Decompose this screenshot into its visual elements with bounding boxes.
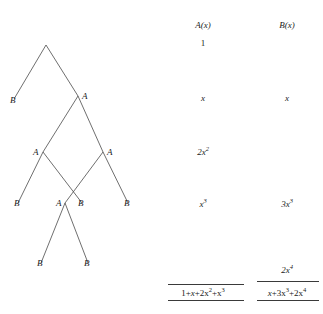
column-header-b: B(x) bbox=[279, 20, 295, 30]
column-a-term-3: x3 bbox=[199, 199, 206, 209]
column-a-term-0: 1 bbox=[201, 38, 206, 48]
tree-edge bbox=[46, 45, 78, 96]
column-a-sum: 1+x+2x2+x3 bbox=[181, 288, 225, 298]
tree-edge bbox=[18, 152, 43, 203]
tree-node-n-a3: A bbox=[107, 148, 113, 157]
column-a-term-1: x bbox=[201, 93, 205, 103]
column-b-term-0: x bbox=[285, 93, 289, 103]
sum-rule-bottom-b bbox=[257, 300, 319, 301]
tree-node-n-b1: B bbox=[10, 96, 16, 105]
column-b-term-1: 3x3 bbox=[281, 199, 293, 209]
tree-edge bbox=[78, 96, 103, 152]
sum-rule-top-b bbox=[257, 281, 319, 282]
tree-node-n-b5: B bbox=[37, 259, 43, 268]
column-header-a: A(x) bbox=[195, 20, 211, 30]
sum-rule-top-a bbox=[168, 284, 244, 285]
tree-edge bbox=[65, 152, 103, 203]
tree-edge bbox=[14, 45, 46, 99]
tree-node-n-a1: A bbox=[82, 92, 88, 101]
column-a-term-2: 2x2 bbox=[197, 147, 209, 157]
tree-node-n-b3: B bbox=[78, 199, 84, 208]
tree-node-n-b6: B bbox=[84, 259, 90, 268]
tree-node-n-b4: B bbox=[124, 199, 130, 208]
tree-edge bbox=[43, 152, 82, 203]
tree-node-n-a2: A bbox=[33, 148, 39, 157]
column-b-extra-term: 2x4 bbox=[281, 265, 293, 275]
tree-node-n-a4: A bbox=[56, 199, 62, 208]
tree-edge bbox=[43, 96, 78, 152]
sum-rule-bottom-a bbox=[168, 300, 244, 301]
tree-edge bbox=[41, 203, 65, 263]
generating-function-tree-figure: BAAABABBBB A(x) B(x) 1x2x2x3 x3x32x4 1+x… bbox=[0, 0, 323, 314]
column-b-sum: x+3x3+2x4 bbox=[268, 288, 307, 298]
binary-tree-diagram bbox=[0, 0, 323, 314]
tree-edge bbox=[65, 203, 88, 263]
tree-node-n-b2: B bbox=[14, 199, 20, 208]
tree-edge bbox=[103, 152, 128, 203]
